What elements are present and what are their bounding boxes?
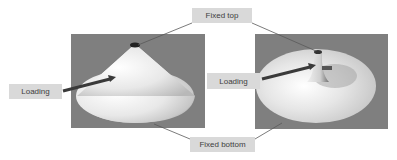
fixed-top-hole [130, 43, 140, 48]
loading-label-left: Loading [9, 84, 62, 99]
right-panel-deformed [255, 34, 388, 129]
fixed-top-stem [314, 50, 322, 54]
fixed-bottom-label: Fixed bottom [190, 137, 255, 152]
fixed-top-label: Fixed top [192, 8, 252, 23]
cone-shape [71, 34, 205, 128]
left-panel-cone [71, 34, 205, 128]
loading-label-right: Loading [207, 73, 260, 89]
deformed-shape [255, 34, 388, 129]
